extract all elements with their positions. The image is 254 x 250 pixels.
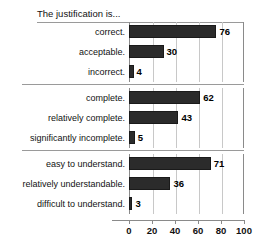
bar-row: correct. 76 <box>0 22 254 42</box>
bar <box>129 91 200 104</box>
category-label: complete. <box>0 88 125 108</box>
bar-track: 5 <box>129 128 244 148</box>
panel-understandability: easy to understand. 71 relatively unders… <box>0 154 254 214</box>
bar-row: incorrect. 4 <box>0 62 254 82</box>
bar <box>129 177 170 190</box>
axis-line <box>112 220 244 221</box>
axis-tick <box>244 220 245 224</box>
bar-value-label: 36 <box>170 174 184 194</box>
panel-completeness: complete. 62 relatively complete. 43 sig… <box>0 88 254 148</box>
bar-row: relatively complete. 43 <box>0 108 254 128</box>
category-label: relatively understandable. <box>0 174 125 194</box>
axis-tick <box>129 220 130 224</box>
bar-row: difficult to understand. 3 <box>0 194 254 214</box>
bar-value-label: 43 <box>178 108 192 128</box>
bar <box>129 45 164 58</box>
bar-value-label: 4 <box>134 62 142 82</box>
category-label: significantly incomplete. <box>0 128 125 148</box>
bar <box>129 111 178 124</box>
bar-value-label: 3 <box>132 194 140 214</box>
bar-value-label: 76 <box>216 22 230 42</box>
bar-track: 3 <box>129 194 244 214</box>
panel-correctness: correct. 76 acceptable. 30 incorrect. 4 <box>0 22 254 82</box>
panel-divider <box>22 150 244 151</box>
bar-chart-figure: The justification is... correct. 76 acce… <box>0 0 254 250</box>
bar-value-label: 71 <box>211 154 225 174</box>
axis-tick <box>175 220 176 224</box>
axis-tick <box>221 220 222 224</box>
bar-track: 36 <box>129 174 244 194</box>
bar-value-label: 62 <box>200 88 214 108</box>
axis-tick-label: 100 <box>229 225 254 236</box>
bar-track: 76 <box>129 22 244 42</box>
category-label: relatively complete. <box>0 108 125 128</box>
chart-title-row: The justification is... <box>0 8 254 22</box>
x-axis: 020406080100 <box>0 220 254 246</box>
bar-row: relatively understandable. 36 <box>0 174 254 194</box>
bar-track: 30 <box>129 42 244 62</box>
bar-track: 43 <box>129 108 244 128</box>
category-label: incorrect. <box>0 62 125 82</box>
bar-track: 4 <box>129 62 244 82</box>
category-label: difficult to understand. <box>0 194 125 214</box>
bar <box>129 157 211 170</box>
bar-value-label: 30 <box>164 42 178 62</box>
axis-tick <box>152 220 153 224</box>
chart-title: The justification is... <box>37 8 120 20</box>
bar-row: acceptable. 30 <box>0 42 254 62</box>
panel-divider <box>22 84 244 85</box>
plot-area: correct. 76 acceptable. 30 incorrect. 4 <box>0 22 254 220</box>
bar-value-label: 5 <box>135 128 143 148</box>
bar-track: 62 <box>129 88 244 108</box>
category-label: correct. <box>0 22 125 42</box>
category-label: easy to understand. <box>0 154 125 174</box>
bar-row: significantly incomplete. 5 <box>0 128 254 148</box>
bar-row: easy to understand. 71 <box>0 154 254 174</box>
axis-tick <box>198 220 199 224</box>
bar-row: complete. 62 <box>0 88 254 108</box>
bar-track: 71 <box>129 154 244 174</box>
bar <box>129 25 216 38</box>
category-label: acceptable. <box>0 42 125 62</box>
